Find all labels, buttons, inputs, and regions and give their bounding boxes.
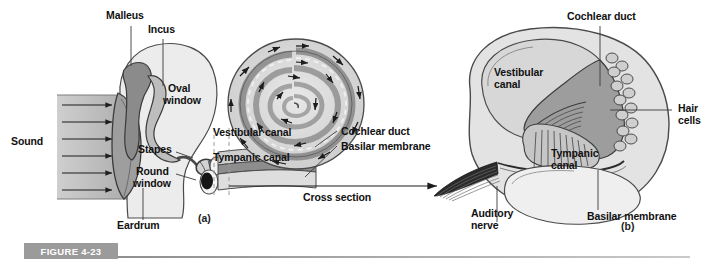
label-stapes: Stapes <box>138 144 172 156</box>
label-vestibular-canal-b-line2: canal <box>494 79 520 91</box>
figure-container: Malleus Incus Oval window Stapes Round w… <box>0 0 716 265</box>
panel-a-artwork <box>57 26 437 220</box>
label-hair-cells-line2: cells <box>678 115 701 127</box>
figure-number-label: FIGURE 4-23 <box>41 246 102 257</box>
label-incus: Incus <box>148 24 175 36</box>
round-window-aperture <box>201 173 213 190</box>
label-vestibular-canal-b-line1: Vestibular <box>494 67 543 79</box>
label-vestibular-canal-a: Vestibular canal <box>213 127 291 139</box>
figure-number-badge: FIGURE 4-23 <box>24 243 118 259</box>
label-oval-window-line1: Oval <box>168 83 190 95</box>
panel-a-letter: (a) <box>198 212 211 224</box>
panel-b-letter: (b) <box>621 220 634 232</box>
label-cochlear-duct-a: Cochlear duct <box>341 126 410 138</box>
label-tympanic-canal-b-line2: canal <box>551 160 577 172</box>
label-oval-window-line2: window <box>163 95 201 107</box>
auditory-nerve-bundle <box>434 162 500 201</box>
label-basilar-membrane-a: Basilar membrane <box>341 141 430 153</box>
label-eardrum: Eardrum <box>117 220 159 232</box>
label-sound: Sound <box>11 136 43 148</box>
panel-b-artwork <box>434 26 672 224</box>
label-auditory-nerve-line1: Auditory <box>471 208 513 220</box>
label-hair-cells-line1: Hair <box>678 103 698 115</box>
label-tympanic-canal-a: Tympanic canal <box>213 152 290 164</box>
label-round-window-line1: Round <box>136 166 169 178</box>
label-cross-section: Cross section <box>303 192 371 204</box>
caption-divider-rule <box>118 256 690 258</box>
label-round-window-line2: window <box>133 178 171 190</box>
label-auditory-nerve-line2: nerve <box>471 220 499 232</box>
label-malleus: Malleus <box>106 10 144 22</box>
figure-caption-bar: FIGURE 4-23 <box>24 243 690 260</box>
label-tympanic-canal-b-line1: Tympanic <box>551 148 598 160</box>
label-cochlear-duct-b: Cochlear duct <box>567 11 636 23</box>
